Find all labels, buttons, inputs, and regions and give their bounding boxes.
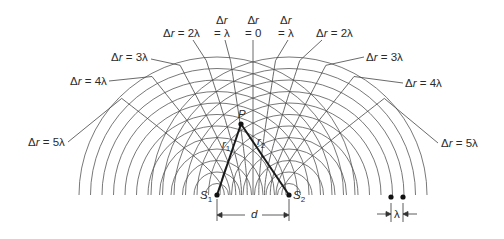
d-label: d (249, 208, 259, 221)
label-delta-r-left-1: Δr= λ (214, 14, 230, 40)
label-delta-r-left-5: Δr = 5λ (28, 136, 65, 149)
label-top: Δr (278, 14, 294, 27)
wavefront-arc-s2-9 (186, 92, 393, 195)
point-P-dot (238, 121, 243, 126)
label-delta-r-right-1: Δr= λ (278, 14, 294, 40)
point-S2-letter: S (293, 189, 301, 201)
label-delta-r-right-5: Δr = 5λ (441, 137, 478, 150)
label-bottom: = λ (214, 27, 230, 40)
curve-right-4 (276, 77, 403, 196)
label-delta-r-right-2: Δr = 2λ (316, 27, 353, 40)
lambda-arrow-right (403, 212, 408, 217)
r2-sub: 2 (261, 141, 265, 150)
d-arrow-left (217, 213, 222, 218)
label-delta-r-left-3: Δr = 3λ (111, 51, 148, 64)
lambda-arrow-left (386, 212, 391, 217)
r1-sub: 1 (226, 144, 230, 153)
wavefront-arc-s1-11 (91, 69, 344, 196)
label-delta-r-left-2: Δr = 2λ (163, 27, 200, 40)
point-S1-sub: 1 (208, 195, 212, 204)
d-arrow-right (284, 213, 289, 218)
lambda-dot-1 (388, 194, 393, 199)
point-P-letter: P (238, 108, 246, 120)
lambda-label: λ (394, 208, 400, 221)
source-S2-dot (286, 192, 291, 197)
point-S1-letter: S (200, 189, 208, 201)
point-S2-sub: 2 (301, 195, 305, 204)
lambda-dot-2 (400, 194, 405, 199)
d-letter: d (251, 208, 257, 220)
wavefront-arc-s2-11 (163, 69, 416, 196)
dimension-markers (217, 199, 417, 222)
wavefront-arc-s1-9 (114, 92, 321, 196)
wavefront-arc-s2-5 (232, 138, 347, 196)
label-top: Δr (245, 14, 261, 27)
label-delta-r-right-4: Δr = 4λ (405, 77, 442, 90)
lambda-letter: λ (394, 208, 400, 220)
label-delta-r-left-4: Δr = 4λ (70, 75, 107, 88)
point-S2-label: S2 (293, 189, 305, 206)
r2-label: r2 (257, 135, 265, 152)
label-delta-r-zero: Δr= 0 (245, 14, 261, 40)
source-S1-dot (214, 192, 219, 197)
label-bottom: = λ (278, 27, 294, 40)
label-top: Δr (214, 14, 230, 27)
label-delta-r-right-3: Δr = 3λ (366, 51, 403, 64)
label-bottom: = 0 (245, 27, 261, 40)
r1-label: r1 (222, 138, 230, 155)
point-P-label: P (238, 108, 246, 121)
point-S1-label: S1 (200, 189, 212, 206)
